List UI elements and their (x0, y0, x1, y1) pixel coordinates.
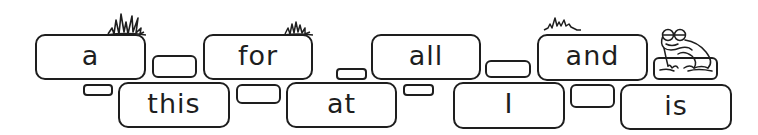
word-label: at (327, 90, 356, 121)
grass-tuft-icon (106, 10, 146, 36)
word-stone-this[interactable]: this (118, 82, 230, 128)
grass-tuft-icon (283, 20, 313, 36)
word-label: this (147, 90, 200, 121)
pebble (403, 84, 434, 96)
frog-icon (658, 28, 718, 74)
word-stone-at[interactable]: at (286, 82, 397, 128)
word-stone-all[interactable]: all (371, 34, 481, 80)
word-label: all (409, 42, 444, 73)
word-stone-i[interactable]: I (453, 82, 565, 129)
word-label: a (82, 42, 100, 73)
pebble (570, 84, 615, 108)
pebble (236, 84, 281, 104)
pebble (83, 84, 113, 96)
grass-tuft-icon (543, 14, 583, 34)
word-label: for (238, 42, 278, 73)
pebble (485, 60, 531, 78)
pebble (336, 68, 367, 80)
word-stone-is[interactable]: is (620, 84, 732, 130)
word-label: and (566, 42, 620, 73)
pebble (152, 55, 197, 78)
word-stone-and[interactable]: and (537, 34, 648, 81)
word-label: is (664, 92, 688, 123)
word-label: I (505, 90, 514, 121)
word-stone-for[interactable]: for (203, 34, 313, 80)
word-stone-a[interactable]: a (35, 34, 146, 80)
